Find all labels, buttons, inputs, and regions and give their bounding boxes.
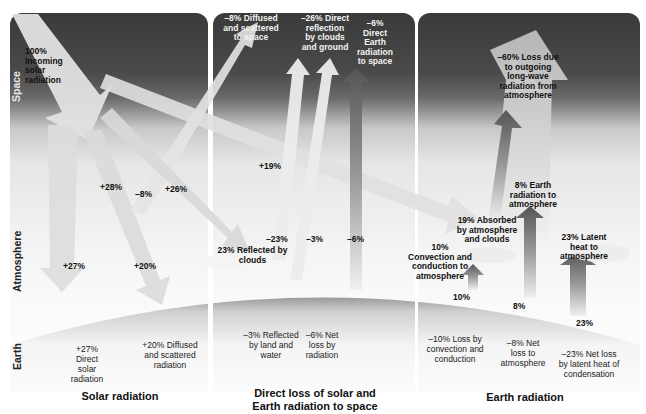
earth-label-reflected: –3% Reflected by land and water — [240, 330, 302, 360]
label-ten-pct: 10% — [453, 293, 470, 303]
label-minus-3: –3% — [306, 235, 323, 245]
panel-title-earth-radiation: Earth radiation — [475, 391, 575, 404]
panel-title-direct-loss: Direct loss of solar and Earth radiation… — [245, 387, 385, 413]
label-earth-rad-atm: 8% Earth radiation to atmosphere — [508, 181, 558, 210]
label-minus-6: –6% — [347, 235, 364, 245]
incoming-solar-label: 100% Incoming solar radiation — [25, 47, 80, 85]
earth-label-diffused: +20% Diffused and scattered radiation — [138, 340, 202, 370]
panel-title-solar: Solar radiation — [60, 390, 180, 403]
earth-label-direct: +27% Direct solar radiation — [66, 344, 108, 384]
arrow-latent-23 — [560, 252, 596, 316]
label-plus-19: +19% — [259, 162, 281, 172]
label-minus-8: –8% — [135, 190, 152, 200]
label-reflected-clouds: 23% Reflected by clouds — [210, 246, 295, 265]
label-plus-28: +28% — [100, 183, 122, 193]
layer-label-space: Space — [10, 71, 22, 102]
earth-label-net-loss: –6% Net loss by radiation — [304, 330, 340, 360]
earth-label-latent: –23% Net loss by latent heat of condensa… — [558, 349, 620, 379]
label-23-pct: 23% — [576, 319, 593, 329]
label-latent: 23% Latent heat to atmosphere — [553, 233, 615, 262]
label-eight-pct: 8% — [513, 302, 525, 312]
label-convection: 10% Convection and conduction to atmosph… — [408, 243, 472, 281]
layer-label-atmosphere: Atmosphere — [11, 231, 23, 292]
label-diffused-space: –8% Diffused and scattered to space — [222, 14, 280, 43]
label-minus-23: –23% — [266, 235, 288, 245]
label-plus-26: +26% — [165, 185, 187, 195]
label-plus-20: +20% — [134, 262, 156, 272]
label-absorbed: 19% Absorbed by atmosphere and clouds — [455, 216, 519, 245]
label-longwave-loss: –60% Loss due to outgoing long-wave radi… — [495, 53, 561, 101]
label-direct-reflection: –26% Direct reflection by clouds and gro… — [300, 14, 350, 52]
label-earth-space: –6% Direct Earth radiation to space — [354, 19, 396, 67]
layer-label-earth: Earth — [11, 343, 23, 370]
earth-label-net: –8% Net loss to atmosphere — [498, 338, 548, 368]
label-plus-27: +27% — [63, 262, 85, 272]
earth-label-convection: –10% Loss by convection and conduction — [425, 334, 485, 364]
